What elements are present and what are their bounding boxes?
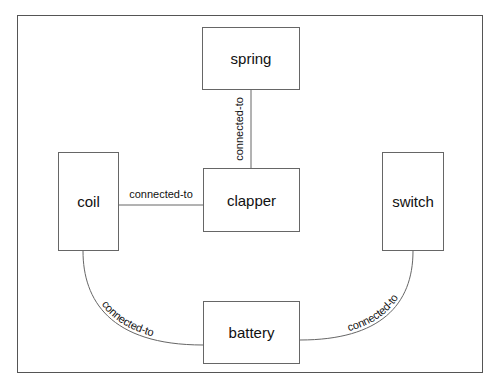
node-clapper[interactable]: clapper	[203, 168, 300, 232]
edge-label-coil-clapper: connected-to	[129, 188, 193, 200]
node-battery[interactable]: battery	[203, 301, 300, 364]
node-label-coil: coil	[77, 193, 100, 210]
node-switch[interactable]: switch	[382, 152, 444, 251]
node-coil[interactable]: coil	[58, 152, 119, 251]
node-label-clapper: clapper	[227, 192, 276, 209]
node-spring[interactable]: spring	[202, 27, 300, 90]
node-label-spring: spring	[231, 50, 272, 67]
node-label-battery: battery	[229, 324, 275, 341]
node-label-switch: switch	[392, 193, 434, 210]
edge-label-coil-battery: connected-to	[100, 298, 156, 338]
edge-label-spring-clapper: connected-to	[233, 97, 245, 161]
edge-label-battery-switch: connected-to	[346, 292, 400, 333]
